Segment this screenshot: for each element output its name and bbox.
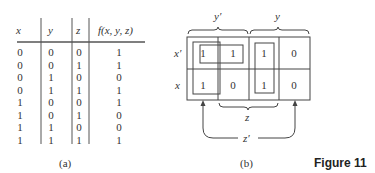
cell-x: 1 <box>10 96 30 108</box>
kmap-cell: 1 <box>254 79 274 91</box>
cell-y: 1 <box>41 71 61 83</box>
cell-f: 1 <box>109 134 129 146</box>
cell-y: 0 <box>41 96 61 108</box>
cell-x: 1 <box>10 121 30 133</box>
cell-z: 0 <box>69 46 89 58</box>
kmap-cell: 1 <box>193 79 213 91</box>
cell-f: 1 <box>109 84 129 96</box>
truth-table-header-x: x <box>16 24 21 36</box>
truth-table-header-f: f(x, y, z) <box>98 24 133 36</box>
cell-z: 0 <box>69 71 89 83</box>
kmap-cell: 1 <box>193 47 213 59</box>
kmap-row-label-x: x <box>175 79 180 91</box>
truth-table-header-z: z <box>76 24 80 36</box>
kmap-cell: 1 <box>254 47 274 59</box>
cell-x: 0 <box>10 84 30 96</box>
cell-x: 0 <box>10 71 30 83</box>
cell-f: 0 <box>109 71 129 83</box>
cell-x: 0 <box>10 59 30 71</box>
kmap-label-y: y <box>275 10 280 22</box>
cell-z: 1 <box>69 134 89 146</box>
caption-b: (b) <box>240 157 253 169</box>
cell-y: 1 <box>41 121 61 133</box>
cell-f: 1 <box>109 46 129 58</box>
kmap-label-z-prime: z′ <box>243 132 250 144</box>
cell-f: 0 <box>109 109 129 121</box>
kmap-cell: 0 <box>223 79 243 91</box>
truth-table-header-y: y <box>48 24 53 36</box>
kmap-cell: 0 <box>284 79 304 91</box>
caption-a: (a) <box>59 157 71 169</box>
cell-x: 0 <box>10 46 30 58</box>
kmap-cell: 1 <box>223 47 243 59</box>
cell-x: 1 <box>10 109 30 121</box>
cell-z: 1 <box>69 109 89 121</box>
cell-z: 1 <box>69 84 89 96</box>
cell-y: 1 <box>41 134 61 146</box>
cell-y: 0 <box>41 109 61 121</box>
cell-f: 1 <box>109 96 129 108</box>
cell-y: 0 <box>41 46 61 58</box>
cell-x: 1 <box>10 134 30 146</box>
cell-z: 0 <box>69 121 89 133</box>
cell-z: 0 <box>69 96 89 108</box>
kmap-label-y-prime: y′ <box>214 10 221 22</box>
figure-label: Figure 11 <box>314 156 367 170</box>
cell-y: 0 <box>41 59 61 71</box>
cell-z: 1 <box>69 59 89 71</box>
kmap-cell: 0 <box>284 47 304 59</box>
cell-f: 1 <box>109 59 129 71</box>
kmap-label-z: z <box>245 111 249 123</box>
cell-f: 0 <box>109 121 129 133</box>
kmap-row-label-x-prime: x′ <box>174 47 181 59</box>
cell-y: 1 <box>41 84 61 96</box>
